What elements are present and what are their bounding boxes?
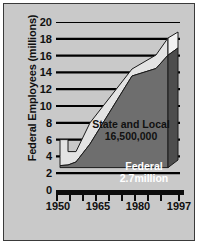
- y-tick-label: 0: [18, 184, 52, 196]
- y-tick-label: 6: [18, 134, 52, 146]
- y-tick-label: 8: [18, 117, 52, 129]
- y-tick-label: 10: [18, 100, 52, 112]
- federal-annotation-line2: 2.7million: [108, 172, 180, 184]
- state-and-local-annotation: State and Local 16,500,000: [82, 118, 180, 142]
- state-and-local-annotation-line2: 16,500,000: [82, 130, 180, 142]
- y-tick-label: 16: [18, 50, 52, 62]
- x-tick-label: 1980: [126, 200, 150, 212]
- y-tick-label: 14: [18, 66, 52, 78]
- y-tick-label: 12: [18, 83, 52, 95]
- y-tick-label: 2: [18, 167, 52, 179]
- x-axis-tick-labels: 1950 1965 1980 1997: [56, 200, 192, 218]
- x-tick-label: 1965: [86, 200, 110, 212]
- y-tick-label: 18: [18, 33, 52, 45]
- y-tick-label: 20: [18, 16, 52, 28]
- x-tick-label: 1950: [46, 200, 70, 212]
- state-and-local-annotation-line1: State and Local: [82, 118, 180, 130]
- chart-figure: Federal Employees (millions) 20 18 16 14…: [3, 3, 195, 241]
- x-tick-label: 1997: [167, 200, 191, 212]
- y-tick-label: 4: [18, 150, 52, 162]
- federal-annotation: Federal 2.7million: [108, 160, 180, 184]
- federal-annotation-line1: Federal: [108, 160, 180, 172]
- series-side-face-right: [168, 48, 178, 168]
